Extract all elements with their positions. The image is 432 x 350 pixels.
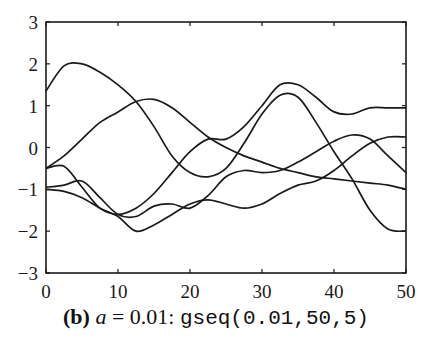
series-line-3 — [46, 83, 406, 215]
caption-code: gseq(0.01,50,5) — [180, 307, 369, 330]
y-tick-label: 3 — [29, 12, 39, 33]
x-tick-label: 0 — [41, 281, 51, 300]
caption-variable: a — [95, 304, 106, 329]
x-tick-label: 30 — [253, 281, 272, 300]
figure-caption: (b) a = 0.01: gseq(0.01,50,5) — [0, 304, 432, 330]
series-line-2 — [46, 99, 406, 189]
y-tick-label: −1 — [18, 179, 38, 200]
axis-tick-labels: 01020304050−3−2−10123 — [18, 12, 416, 300]
y-tick-label: 2 — [29, 54, 39, 75]
x-tick-label: 20 — [181, 281, 200, 300]
x-tick-label: 40 — [325, 281, 344, 300]
series-lines — [46, 63, 406, 232]
y-tick-label: 1 — [29, 96, 39, 117]
line-chart: 01020304050−3−2−10123 — [0, 0, 432, 300]
y-tick-label: −3 — [18, 263, 38, 284]
x-tick-label: 50 — [397, 281, 416, 300]
series-line-5 — [46, 137, 406, 232]
y-tick-label: 0 — [29, 138, 39, 159]
x-tick-label: 10 — [109, 281, 128, 300]
caption-label: (b) — [63, 304, 90, 329]
caption-equation: = 0.01: — [106, 304, 180, 329]
y-tick-label: −2 — [18, 221, 38, 242]
